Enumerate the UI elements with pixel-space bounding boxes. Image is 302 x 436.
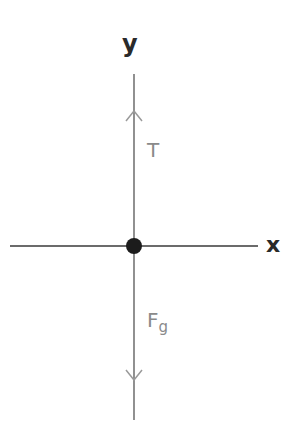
gravity-label-subscript: g — [159, 318, 169, 336]
free-body-diagram — [0, 0, 302, 436]
tension-label: T — [147, 138, 159, 162]
y-axis-label: y — [122, 30, 138, 58]
x-axis-label: x — [266, 232, 280, 257]
point-mass-dot — [126, 238, 142, 254]
gravity-label-main: F — [147, 308, 159, 332]
gravity-label: Fg — [147, 308, 168, 336]
